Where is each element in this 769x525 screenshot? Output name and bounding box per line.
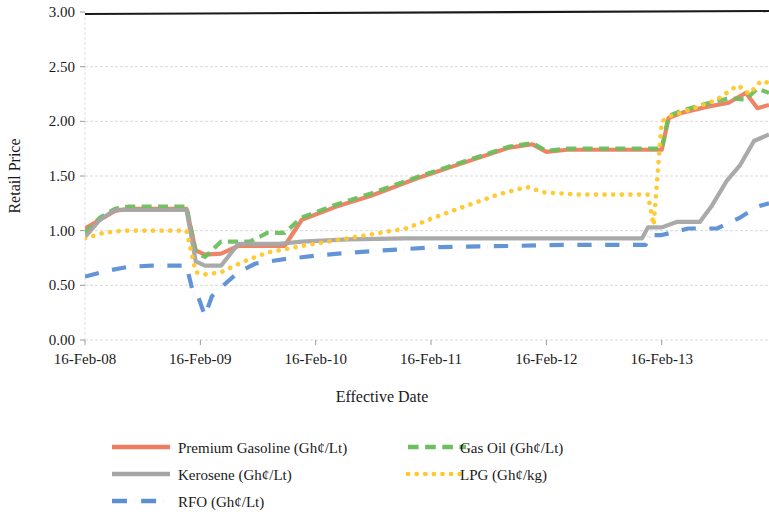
y-axis-tick-labels: 0.000.501.001.502.002.503.00: [49, 4, 75, 348]
x-tick-label: 16-Feb-09: [169, 351, 232, 367]
x-axis-title-text: Effective Date: [336, 388, 429, 405]
chart-legend: Premium Gasoline (Gh¢/Lt)Gas Oil (Gh¢/Lt…: [112, 440, 563, 511]
retail-price-line-chart: 0.000.501.001.502.002.503.00 16-Feb-0816…: [0, 0, 769, 525]
x-tick-label: 16-Feb-10: [284, 351, 347, 367]
legend-label: Kerosene (Gh¢/Lt): [178, 467, 292, 484]
series-line-3: [85, 134, 769, 265]
y-tick-label: 0.00: [49, 332, 75, 348]
legend-label: Premium Gasoline (Gh¢/Lt): [178, 440, 347, 457]
y-tick-label: 1.00: [49, 223, 75, 239]
series-line-4: [85, 81, 769, 275]
x-tick-label: 16-Feb-13: [630, 351, 693, 367]
chart-canvas: 0.000.501.001.502.002.503.00 16-Feb-0816…: [0, 0, 769, 525]
y-tick-label: 2.50: [49, 59, 75, 75]
x-tick-label: 16-Feb-12: [515, 351, 578, 367]
x-tick-label: 16-Feb-11: [400, 351, 462, 367]
x-tick-label: 16-Feb-08: [54, 351, 117, 367]
x-axis-tick-labels: 16-Feb-0816-Feb-0916-Feb-1016-Feb-1116-F…: [54, 351, 693, 367]
legend-label: LPG (Gh¢/kg): [460, 467, 547, 484]
plot-top-border: [85, 11, 769, 14]
y-axis-title: Retail Price: [6, 138, 23, 213]
y-tick-label: 1.50: [49, 168, 75, 184]
y-tick-label: 3.00: [49, 4, 75, 20]
x-axis-title: Effective Date: [336, 388, 429, 405]
legend-label: RFO (Gh¢/Lt): [178, 494, 264, 511]
y-tick-label: 2.00: [49, 113, 75, 129]
legend-label: Gas Oil (Gh¢/Lt): [460, 440, 563, 457]
top-border: [85, 11, 769, 14]
y-axis-title-text: Retail Price: [6, 138, 23, 213]
axis-ticks: [80, 12, 662, 345]
y-tick-label: 0.50: [49, 277, 75, 293]
data-series-layer: [85, 81, 769, 316]
